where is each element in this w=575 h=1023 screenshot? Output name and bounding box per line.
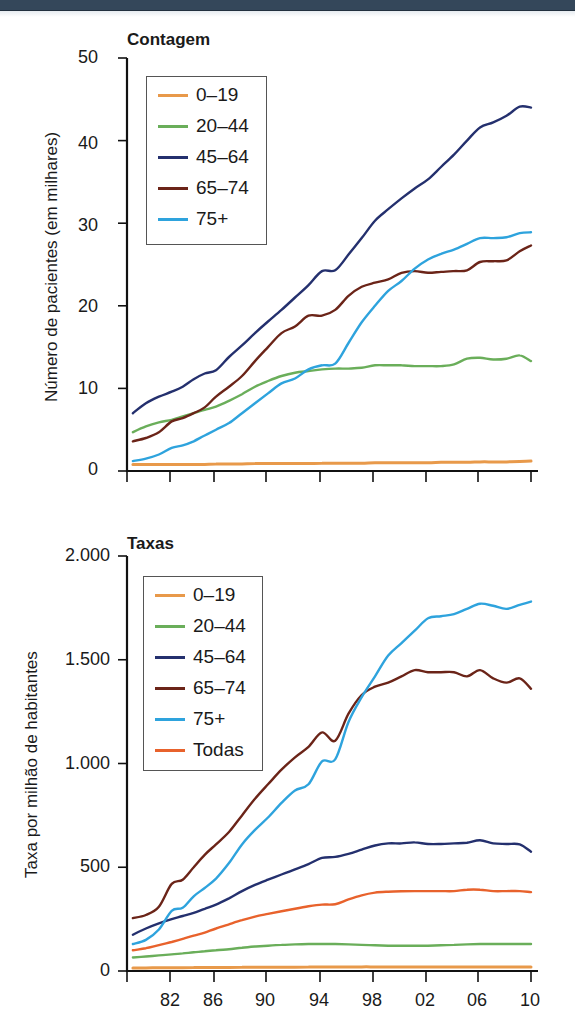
bottom-xtick-label: 86	[193, 990, 233, 1011]
legend-label: 75+	[196, 208, 228, 230]
legend-swatch	[158, 125, 188, 128]
count-chart	[0, 0, 575, 500]
series-line-20-44	[133, 944, 531, 958]
legend-item-20-44: 20–44	[144, 611, 262, 642]
bottom-xtick-label: 90	[245, 990, 285, 1011]
legend-label: 45–64	[196, 146, 249, 168]
bottom-xtick-label: 06	[457, 990, 497, 1011]
legend-item-65-74: 65–74	[147, 173, 266, 204]
legend-item-65-74: 65–74	[144, 673, 262, 704]
legend-swatch	[158, 94, 188, 97]
legend-label: 0–19	[196, 84, 238, 106]
legend-swatch	[155, 687, 185, 690]
legend-item-todas: Todas	[144, 735, 262, 766]
legend-item-75-plus: 75+	[144, 704, 262, 735]
bottom-xtick-label: 02	[405, 990, 445, 1011]
legend-label: 20–44	[196, 115, 249, 137]
series-line-Todas	[133, 889, 531, 950]
series-line-65-74	[133, 246, 531, 442]
bottom-ytick-label: 0	[30, 960, 110, 981]
series-line-0-19	[133, 461, 531, 464]
legend-label: 20–44	[193, 615, 246, 637]
legend-label: 0–19	[193, 584, 235, 606]
bottom-ytick-label: 1.000	[30, 753, 110, 774]
legend-swatch	[155, 749, 185, 752]
legend-item-75-plus: 75+	[147, 204, 266, 235]
legend-swatch	[158, 156, 188, 159]
legend-swatch	[155, 594, 185, 597]
top-legend: 0–19 20–44 45–64 65–74 75+	[146, 76, 267, 245]
legend-swatch	[155, 718, 185, 721]
legend-label: 65–74	[193, 677, 246, 699]
top-ytick-label: 0	[18, 459, 98, 480]
series-line-45-64	[133, 840, 531, 934]
legend-item-20-44: 20–44	[147, 111, 266, 142]
bottom-legend: 0–19 20–44 45–64 65–74 75+ Todas	[143, 576, 263, 771]
bottom-y-axis-label: Taxa por milhão de habitantes	[22, 651, 42, 878]
legend-label: 75+	[193, 708, 225, 730]
legend-item-0-19: 0–19	[144, 580, 262, 611]
top-y-axis-label: Número de pacientes (em milhares)	[42, 132, 62, 402]
legend-item-45-64: 45–64	[147, 142, 266, 173]
legend-label: 45–64	[193, 646, 246, 668]
legend-swatch	[158, 187, 188, 190]
legend-item-0-19: 0–19	[147, 80, 266, 111]
legend-swatch	[158, 218, 188, 221]
legend-swatch	[155, 625, 185, 628]
bottom-ytick-label: 1.500	[30, 649, 110, 670]
legend-label: Todas	[193, 739, 244, 761]
top-ytick-label: 50	[18, 47, 98, 68]
bottom-panel-title: Taxas	[127, 534, 174, 554]
bottom-ytick-label: 2.000	[30, 545, 110, 566]
legend-item-45-64: 45–64	[144, 642, 262, 673]
bottom-xtick-label: 94	[299, 990, 339, 1011]
bottom-ytick-label: 500	[30, 856, 110, 877]
bottom-xtick-label: 10	[510, 990, 550, 1011]
legend-swatch	[155, 656, 185, 659]
series-line-0-19	[133, 967, 531, 968]
bottom-xtick-label: 82	[150, 990, 190, 1011]
series-line-20-44	[133, 355, 531, 432]
bottom-xtick-label: 98	[352, 990, 392, 1011]
legend-label: 65–74	[196, 177, 249, 199]
